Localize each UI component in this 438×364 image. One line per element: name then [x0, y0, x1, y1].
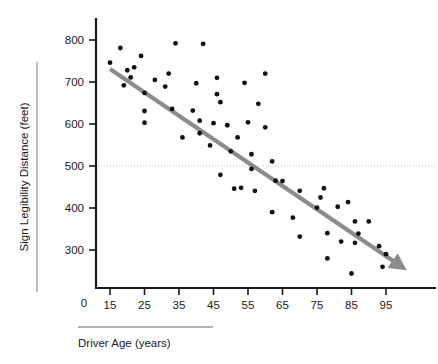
data-point — [118, 46, 123, 51]
data-point — [239, 185, 244, 190]
data-point — [322, 186, 327, 191]
data-point — [366, 219, 371, 224]
x-tick-label: 45 — [207, 299, 220, 311]
x-tick-label: 75 — [311, 299, 324, 311]
chart-canvas: 300400500600700800152535455565758595 Sig… — [0, 0, 438, 364]
data-point — [346, 200, 351, 205]
y-origin-label: 0 — [81, 297, 87, 309]
data-point — [142, 109, 147, 114]
y-tick-label: 400 — [65, 202, 84, 214]
data-point — [197, 118, 202, 123]
data-point — [194, 81, 199, 86]
data-point — [377, 244, 382, 249]
y-tick-label: 600 — [65, 118, 84, 130]
axes-group — [96, 18, 436, 288]
data-point — [280, 179, 285, 184]
data-point — [235, 135, 240, 140]
data-point — [218, 100, 223, 105]
data-point — [139, 54, 144, 59]
x-tick-label: 65 — [276, 299, 289, 311]
x-tick-label: 85 — [345, 299, 358, 311]
y-tick-label: 500 — [65, 160, 84, 172]
x-tick-label: 55 — [242, 299, 255, 311]
axis-ticks-group — [89, 40, 386, 295]
data-point — [335, 204, 340, 209]
data-point — [201, 41, 206, 46]
data-point — [325, 231, 330, 236]
data-point — [125, 68, 130, 73]
data-point — [263, 71, 268, 76]
data-point — [380, 264, 385, 269]
data-point — [218, 172, 223, 177]
data-point — [353, 240, 358, 245]
data-point — [349, 271, 354, 276]
x-tick-label: 25 — [138, 299, 151, 311]
data-point — [353, 219, 358, 224]
data-point — [315, 205, 320, 210]
x-tick-label: 15 — [104, 299, 117, 311]
x-tick-label: 35 — [173, 299, 186, 311]
axis-frame — [96, 18, 436, 288]
scatter-plot-figure: 300400500600700800152535455565758595 Sig… — [0, 0, 438, 364]
data-point — [197, 131, 202, 136]
data-point — [166, 71, 171, 76]
data-point — [249, 167, 254, 172]
data-point — [273, 178, 278, 183]
data-point — [108, 60, 113, 65]
data-point — [152, 78, 157, 83]
y-tick-label: 800 — [65, 34, 84, 46]
data-point — [297, 188, 302, 193]
data-point — [356, 231, 361, 236]
data-point — [249, 152, 254, 157]
data-point — [339, 239, 344, 244]
data-point — [132, 65, 137, 70]
data-point — [163, 84, 168, 89]
y-tick-label: 700 — [65, 76, 84, 88]
data-point — [142, 91, 147, 96]
data-point — [270, 210, 275, 215]
data-point — [190, 108, 195, 113]
data-point — [325, 256, 330, 261]
data-point — [318, 195, 323, 200]
trend-line-group — [110, 69, 407, 270]
y-axis-title: Sign Legibility Distance (feet) — [18, 102, 30, 251]
data-point — [215, 75, 220, 80]
data-point — [121, 83, 126, 88]
data-point — [173, 41, 178, 46]
data-point — [225, 123, 230, 128]
data-point — [263, 125, 268, 130]
data-point — [256, 101, 261, 106]
data-point — [142, 120, 147, 125]
x-tick-label: 95 — [380, 299, 393, 311]
data-point — [232, 186, 237, 191]
data-point — [242, 80, 247, 85]
data-point — [180, 135, 185, 140]
data-point — [128, 75, 133, 80]
x-axis-title: Driver Age (years) — [78, 337, 171, 349]
data-point — [208, 143, 213, 148]
data-point — [384, 252, 389, 257]
data-point — [246, 120, 251, 125]
axis-tick-labels-group: 300400500600700800152535455565758595 — [65, 34, 393, 311]
data-point — [270, 159, 275, 164]
data-point — [170, 106, 175, 111]
y-tick-label: 300 — [65, 244, 84, 256]
data-point — [215, 92, 220, 97]
data-point — [211, 121, 216, 126]
data-points-group — [108, 41, 389, 276]
data-point — [253, 188, 258, 193]
data-point — [297, 234, 302, 239]
data-point — [290, 215, 295, 220]
data-point — [228, 149, 233, 154]
